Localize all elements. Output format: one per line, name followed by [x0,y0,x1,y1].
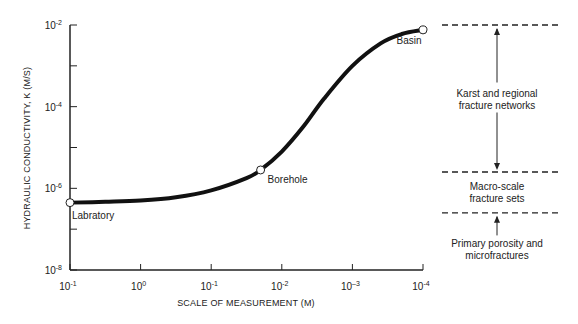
y-tick-label: 10-8 [45,264,62,276]
data-point-labratory [66,199,74,207]
data-point-basin [419,26,427,34]
zone-label: Primary porosity and [451,238,543,249]
x-tick-label: 10-1 [201,280,218,292]
x-tick-label: 10-1 [59,280,76,292]
x-tick-label: 10-4 [412,280,429,292]
y-tick-label: 10-6 [45,182,62,194]
curve-layer: LabratoryBoreholeBasin [66,26,427,221]
zone-label: Macro-scale [470,181,525,192]
point-label-borehole: Borehole [268,174,308,185]
y-tick-label: 10-2 [45,19,62,31]
arrow-up-icon [494,28,500,35]
x-tick-label: 100 [131,280,146,292]
arrow-down-icon [494,163,500,170]
y-tick-label: 10-4 [45,101,62,113]
y-axis-title: HYDRAULIC CONDUCTIVITY, K (M/S) [22,67,32,230]
arrow-up-icon [494,216,500,223]
hydraulic-conductivity-chart: 10-210-410-610-810-110010-110-210–310-4 … [0,0,578,324]
zone-label: Karst and regional [456,88,537,99]
zone-label: fracture sets [469,193,524,204]
x-tick-label: 10–3 [341,280,360,292]
x-tick-label: 10-2 [271,280,288,292]
data-point-borehole [257,166,265,174]
zones-layer: Karst and regionalfracture networksMacro… [442,25,558,261]
x-axis-title: SCALE OF MEASUREMENT (M) [177,298,315,308]
axes: 10-210-410-610-810-110010-110-210–310-4 [45,19,430,292]
conductivity-curve [70,30,423,203]
zone-label: microfractures [465,250,528,261]
point-label-labratory: Labratory [72,210,114,221]
zone-label: fracture networks [459,100,536,111]
point-label-basin: Basin [396,35,421,46]
